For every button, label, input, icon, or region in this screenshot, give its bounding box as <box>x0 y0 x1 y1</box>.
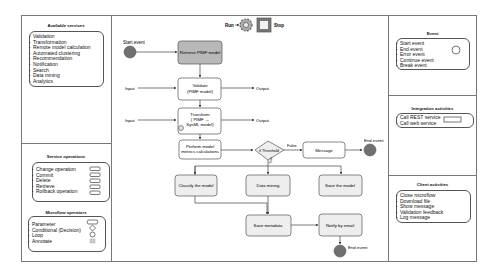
validate-sublabel: (PIMF model) <box>187 89 214 94</box>
end-event-label: End event <box>348 245 368 250</box>
save-model-label: Save the model <box>325 183 355 188</box>
stop-button[interactable]: Stop <box>257 18 284 32</box>
retrieve-node[interactable]: Retrieve PIMF model <box>178 41 222 64</box>
loop-marker-icon <box>179 126 184 131</box>
edge-classify-metadata <box>195 196 267 214</box>
stop-label[interactable]: Stop <box>274 23 284 28</box>
perform-node[interactable]: Perform model metrics calculations <box>179 140 221 159</box>
true-label: True <box>269 157 273 164</box>
microflow-diagram: Run Stop Start event Retrieve PIMF model… <box>0 0 497 277</box>
decision-label: if Threshold <box>259 149 279 153</box>
end-event-node[interactable] <box>364 144 376 156</box>
notify-label: Notify by email <box>326 223 354 228</box>
output-label: Output <box>256 86 270 91</box>
data-mining-node[interactable]: Data mining <box>246 175 290 196</box>
classify-node[interactable]: Classify the model <box>175 175 217 196</box>
message-label: Message <box>315 148 333 153</box>
perform-sublabel: metrics calculations <box>181 149 219 154</box>
data-mining-label: Data mining <box>257 183 281 188</box>
validate-label: Validate <box>192 83 208 88</box>
save-model-node[interactable]: Save the model <box>319 175 362 196</box>
end-event-node[interactable] <box>334 245 346 257</box>
end-event-label: End event <box>364 138 384 143</box>
false-label: False <box>287 143 298 148</box>
output-label: Output <box>256 118 270 123</box>
classify-label: Classify the model <box>178 183 213 188</box>
notify-node[interactable]: Notify by email <box>319 214 362 236</box>
save-metadata-label: Save metadata <box>254 223 284 228</box>
start-event-node[interactable] <box>124 46 136 58</box>
retrieve-label: Retrieve PIMF model <box>180 50 220 55</box>
validate-node[interactable]: Validate (PIMF model) <box>178 78 221 100</box>
save-metadata-node[interactable]: Save metadata <box>246 215 291 236</box>
run-label[interactable]: Run <box>225 23 234 28</box>
start-event-label: Start event <box>123 40 146 45</box>
input-label: Input <box>125 118 135 123</box>
message-node[interactable]: Message <box>303 142 345 158</box>
transform-sublabel: SysML model) <box>186 122 214 127</box>
transform-node[interactable]: Transform ( PIMF → SysML model) <box>178 108 221 134</box>
input-label: Input <box>125 86 135 91</box>
